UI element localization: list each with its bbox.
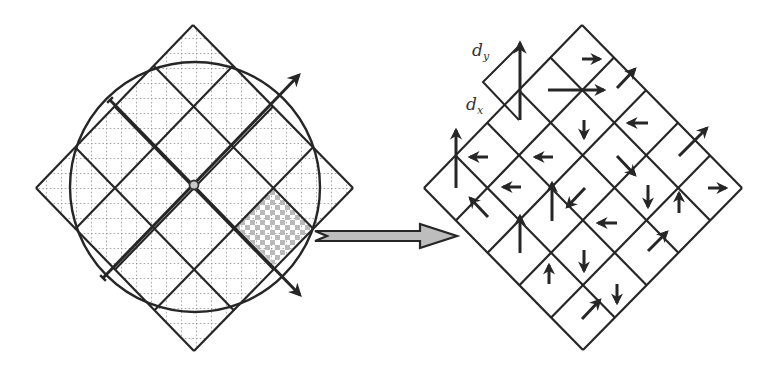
dy-label: dy: [472, 40, 490, 63]
right-grid-line: [519, 123, 678, 285]
transfer-arrow-icon: [315, 224, 457, 248]
gradient-arrow-icon: [648, 232, 667, 251]
right-grid-line: [550, 58, 710, 221]
right-grid-line: [488, 90, 646, 253]
right-grid-line: [424, 188, 583, 350]
right-grid-line: [519, 90, 679, 253]
gradient-cell-grid: [424, 25, 742, 350]
gradient-arrow-icon: [567, 188, 585, 207]
right-grid-line: [456, 58, 614, 221]
gradient-arrow-icon: [679, 128, 707, 156]
gradient-arrow-icon: [582, 300, 600, 319]
gradient-arrow-icon: [617, 69, 635, 88]
right-grid-line: [583, 188, 742, 350]
dx-label: dx: [466, 94, 484, 117]
right-grid-line: [582, 25, 742, 188]
center-point: [190, 181, 199, 190]
left-panel-sampling-grid: [36, 25, 353, 351]
right-grid-line: [424, 25, 582, 188]
right-panel-gradient-grid: dy dx: [424, 25, 742, 350]
gradient-arrow-icon: [617, 156, 635, 175]
gradient-arrow-icon: [470, 198, 488, 217]
right-grid-line: [487, 123, 646, 285]
right-grid-line: [551, 155, 710, 317]
figure-canvas: dy dx: [0, 0, 767, 374]
right-grid-line: [456, 155, 615, 317]
